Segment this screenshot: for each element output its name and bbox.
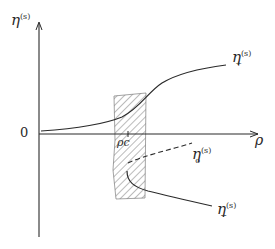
eta-zero-sup: (s): [201, 146, 211, 155]
y-label-base: η: [11, 11, 20, 29]
eta-minus-label: η(s)−: [217, 202, 236, 220]
eta-plus-sup: (s): [241, 49, 251, 58]
critical-density-label: ρc: [117, 137, 130, 148]
x-axis-label: ρ: [255, 133, 263, 147]
eta-minus-sup: (s): [226, 201, 236, 210]
y-axis-label: η(s): [11, 13, 30, 28]
eta-plus-sub: +: [235, 59, 242, 68]
eta-zero-label: η(s)o: [192, 147, 200, 165]
origin-label: 0: [20, 126, 28, 139]
eta-zero-sub: o: [195, 156, 200, 165]
eta-plus-label: η(s)+: [232, 50, 242, 68]
eta-minus-sub: −: [220, 211, 227, 220]
y-label-sup: (s): [20, 12, 30, 21]
